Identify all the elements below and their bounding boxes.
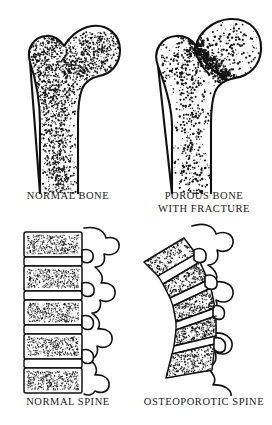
articular-process xyxy=(214,338,225,353)
panel-porous-bone: POROUS BONE WITH FRACTURE xyxy=(136,4,272,216)
normal-femur-illustration xyxy=(0,4,136,194)
panel-normal-spine: NORMAL SPINE xyxy=(0,220,136,420)
articular-process xyxy=(82,350,93,364)
panel-normal-bone: NORMAL BONE xyxy=(0,4,136,216)
articular-process xyxy=(82,249,93,262)
caption-normal-spine: NORMAL SPINE xyxy=(0,396,136,409)
articular-process xyxy=(194,249,206,263)
intervertebral-disc xyxy=(24,291,82,300)
intervertebral-disc xyxy=(24,257,82,266)
osteoporotic-spine-illustration xyxy=(136,220,272,396)
articular-process xyxy=(205,275,217,289)
intervertebral-disc xyxy=(24,359,82,368)
articular-process xyxy=(82,316,93,330)
caption-porous-bone: POROUS BONE WITH FRACTURE xyxy=(136,190,272,215)
normal-spine-illustration xyxy=(0,220,136,396)
osteoporosis-comparison-figure: NORMAL BONE POROUS BONE WITH FRACTURE xyxy=(0,0,272,425)
caption-normal-bone: NORMAL BONE xyxy=(0,190,136,203)
intervertebral-disc xyxy=(24,325,82,334)
caption-osteoporotic-spine: OSTEOPOROTIC SPINE xyxy=(136,396,272,409)
panel-osteoporotic-spine: OSTEOPOROTIC SPINE xyxy=(136,220,272,420)
articular-process xyxy=(82,282,94,296)
porous-femur-illustration xyxy=(136,4,272,194)
